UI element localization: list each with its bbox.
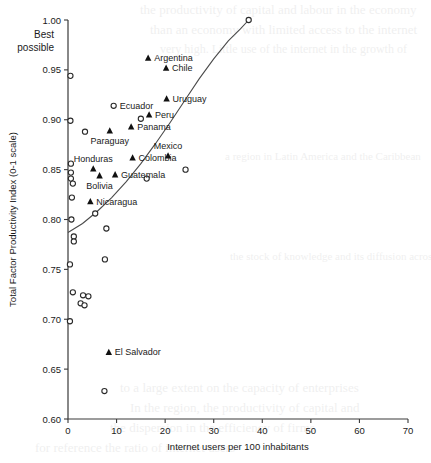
point-label-bolivia: Bolivia (86, 181, 113, 191)
y-tick-label: 0.95 (43, 64, 62, 75)
data-point-unlabeled (70, 290, 75, 295)
data-point-unlabeled (71, 239, 76, 244)
data-point-unlabeled (104, 226, 109, 231)
axes (68, 20, 408, 419)
x-tick-label: 50 (306, 425, 317, 436)
point-label-argentina: Argentina (154, 53, 193, 63)
data-point-unlabeled (82, 129, 87, 134)
data-point-paraguay (107, 127, 113, 133)
point-label-el-salvador: El Salvador (115, 347, 161, 357)
data-point-unlabeled (82, 303, 87, 308)
data-point-unlabeled (67, 262, 72, 267)
x-tick-label: 60 (354, 425, 365, 436)
data-point-unlabeled (69, 217, 74, 222)
data-point-unlabeled (86, 294, 91, 299)
x-tick-label: 10 (111, 425, 122, 436)
point-label-colombia: Colombia (139, 153, 177, 163)
y-tick-label: 0.80 (43, 214, 62, 225)
point-label-panama: Panama (137, 122, 171, 132)
data-point-nicaragua (87, 198, 93, 204)
data-point-unlabeled (102, 388, 107, 393)
y-tick-labels: 0.600.650.700.750.800.850.900.951.00 (43, 15, 62, 425)
unlabeled-data-points (67, 17, 251, 393)
data-point-unlabeled (68, 73, 73, 78)
y-tick-label: 0.70 (43, 314, 62, 325)
data-point-argentina (145, 54, 151, 60)
data-point-unlabeled (183, 167, 188, 172)
data-point-chile (163, 64, 169, 70)
data-point-unlabeled (71, 234, 76, 239)
axis-ticks (64, 20, 408, 423)
y-tick-label: 0.75 (43, 264, 62, 275)
chart-svg: 010203040506070 0.600.650.700.750.800.85… (0, 0, 431, 463)
data-point-unlabeled (138, 116, 143, 121)
data-point-el-salvador (106, 349, 112, 355)
point-label-guatemala: Guatemala (121, 170, 165, 180)
annotation-line: Best (34, 29, 54, 40)
data-point-unlabeled (69, 195, 74, 200)
y-tick-label: 1.00 (43, 15, 62, 26)
x-tick-label: 40 (257, 425, 268, 436)
y-tick-label: 0.65 (43, 364, 62, 375)
data-point-unlabeled (67, 319, 72, 324)
data-point-labels: ArgentinaChileUruguayPeruPanamaParaguayM… (74, 53, 207, 357)
y-tick-label: 0.85 (43, 164, 62, 175)
x-tick-label: 30 (208, 425, 219, 436)
x-axis-title: Internet users per 100 inhabitants (167, 441, 309, 452)
point-label-uruguay: Uruguay (173, 94, 208, 104)
data-point-unlabeled (68, 176, 73, 181)
data-point-colombia (129, 154, 135, 160)
point-label-peru: Peru (155, 110, 174, 120)
point-label-chile: Chile (172, 63, 193, 73)
point-label-ecuador: Ecuador (120, 101, 154, 111)
data-point-unlabeled (80, 293, 85, 298)
x-tick-label: 0 (65, 425, 70, 436)
data-point-unlabeled (68, 118, 73, 123)
annotation-best-possible: Bestpossible (17, 29, 54, 53)
data-point-ecuador (111, 103, 116, 108)
x-tick-label: 20 (160, 425, 171, 436)
axis-titles: Internet users per 100 inhabitantsTotal … (7, 132, 309, 452)
point-label-mexico: Mexico (154, 141, 183, 151)
x-tick-label: 70 (403, 425, 414, 436)
point-label-honduras: Honduras (74, 154, 114, 164)
point-label-paraguay: Paraguay (91, 136, 130, 146)
chart-annotations: Bestpossible (17, 29, 54, 53)
x-tick-labels: 010203040506070 (65, 425, 413, 436)
y-tick-label: 0.90 (43, 114, 62, 125)
axis-lines (68, 20, 408, 419)
data-point-unlabeled (102, 257, 107, 262)
plot-area: 010203040506070 0.600.650.700.750.800.85… (7, 15, 413, 453)
y-tick-label: 0.60 (43, 414, 62, 425)
data-point-unlabeled (93, 211, 98, 216)
data-point-unlabeled (246, 17, 251, 22)
data-point-uruguay (163, 95, 169, 101)
data-point-panama (128, 123, 134, 129)
y-axis-title: Total Factor Productivity Index (0-1 sca… (7, 132, 18, 307)
data-point-unlabeled (68, 170, 73, 175)
scatter-chart-figure: the productivity of capital and labour i… (0, 0, 431, 463)
data-point-unlabeled (68, 161, 73, 166)
annotation-line: possible (17, 42, 54, 53)
data-point-peru (146, 111, 152, 117)
data-point-honduras (90, 165, 96, 171)
point-label-nicaragua: Nicaragua (96, 197, 137, 207)
data-point-unlabeled (70, 181, 75, 186)
data-point-guatemala (112, 171, 118, 177)
data-point-bolivia (96, 172, 102, 178)
